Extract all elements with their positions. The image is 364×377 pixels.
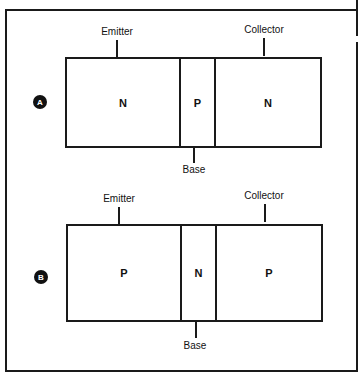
badge-b-icon: B	[34, 270, 48, 284]
emitter-region-b: P	[68, 226, 180, 320]
frame-right-edge-lower	[356, 42, 358, 372]
emitter-region-a: N	[67, 59, 179, 146]
base-region-a: P	[179, 59, 214, 146]
emitter-lead-a	[116, 40, 118, 58]
badge-b-label: B	[38, 273, 44, 282]
base-region-b: N	[180, 226, 215, 320]
collector-label-b: Collector	[244, 190, 283, 201]
collector-region-b: P	[215, 226, 321, 320]
badge-a-icon: A	[33, 95, 47, 109]
emitter-label-b: Emitter	[103, 193, 135, 204]
transistor-body-a: N P N	[65, 57, 322, 148]
base-lead-b	[195, 322, 197, 338]
base-label-b: Base	[184, 340, 207, 351]
collector-lead-b	[264, 204, 266, 222]
collector-region-a: N	[214, 59, 320, 146]
emitter-label-a: Emitter	[101, 26, 133, 37]
badge-a-label: A	[37, 98, 43, 107]
collector-lead-a	[263, 38, 265, 56]
transistor-body-b: P N P	[66, 224, 323, 322]
frame-right-edge-upper	[356, 0, 358, 36]
base-label-a: Base	[183, 164, 206, 175]
collector-label-a: Collector	[244, 24, 283, 35]
base-lead-a	[193, 147, 195, 163]
